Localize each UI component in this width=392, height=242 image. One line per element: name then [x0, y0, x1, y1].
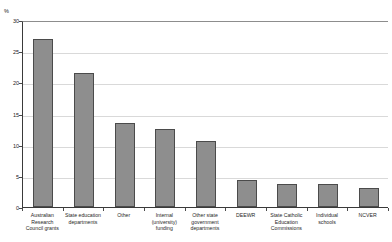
y-axis-tick-label: 15: [3, 112, 19, 118]
bar-chart-figure: % 051015202530 Australian Research Counc…: [0, 0, 392, 242]
bar[interactable]: [237, 180, 257, 207]
plot-area: [22, 21, 388, 208]
bar[interactable]: [318, 184, 338, 207]
y-axis-tick-mark: [19, 115, 22, 116]
y-axis-tick-mark: [19, 177, 22, 178]
bar[interactable]: [359, 188, 379, 207]
bar-group: [348, 22, 389, 207]
bar-group: [226, 22, 267, 207]
x-axis-category-label: State Catholic Education Commissions: [266, 212, 307, 232]
y-axis-tick-mark: [19, 146, 22, 147]
x-axis-category-label: Other state government departments: [185, 212, 226, 232]
x-axis-tick-mark: [22, 208, 23, 211]
y-axis-tick-label: 0: [3, 205, 19, 211]
y-axis-tick-mark: [19, 83, 22, 84]
x-axis-tick-mark: [225, 208, 226, 211]
chart-title: [0, 0, 392, 3]
bar-group: [104, 22, 145, 207]
x-axis-category-label: State education departments: [63, 212, 104, 225]
y-axis-unit-label: %: [4, 8, 9, 14]
bars-layer: [23, 22, 388, 207]
bar[interactable]: [277, 184, 297, 207]
bar-group: [186, 22, 227, 207]
x-axis-tick-mark: [63, 208, 64, 211]
y-axis-tick-label: 5: [3, 174, 19, 180]
x-axis-category-label: NCVER: [347, 212, 388, 219]
y-axis-tick-label: 20: [3, 80, 19, 86]
bar-group: [64, 22, 105, 207]
bar-group: [145, 22, 186, 207]
x-axis-category-label: Individual schools: [307, 212, 348, 225]
bar[interactable]: [196, 141, 216, 207]
bar-group: [23, 22, 64, 207]
bar[interactable]: [155, 129, 175, 207]
y-axis-tick-mark: [19, 21, 22, 22]
x-axis-tick-mark: [347, 208, 348, 211]
bar[interactable]: [115, 123, 135, 207]
bar-group: [308, 22, 349, 207]
x-axis-tick-mark: [185, 208, 186, 211]
bar[interactable]: [74, 73, 94, 207]
x-axis-category-label: Australian Research Council grants: [22, 212, 63, 232]
x-axis-category-label: Other: [103, 212, 144, 219]
bar-group: [267, 22, 308, 207]
x-axis-tick-mark: [144, 208, 145, 211]
x-axis-tick-mark: [103, 208, 104, 211]
x-axis-category-label: Internal (university) funding: [144, 212, 185, 232]
x-axis-tick-mark: [388, 208, 389, 211]
y-axis-tick-label: 30: [3, 18, 19, 24]
x-axis-category-label: DEEWR: [225, 212, 266, 219]
x-axis-tick-mark: [266, 208, 267, 211]
y-axis-tick-mark: [19, 52, 22, 53]
x-axis-tick-mark: [307, 208, 308, 211]
bar[interactable]: [33, 39, 53, 207]
y-axis-tick-label: 10: [3, 143, 19, 149]
y-axis-tick-label: 25: [3, 49, 19, 55]
